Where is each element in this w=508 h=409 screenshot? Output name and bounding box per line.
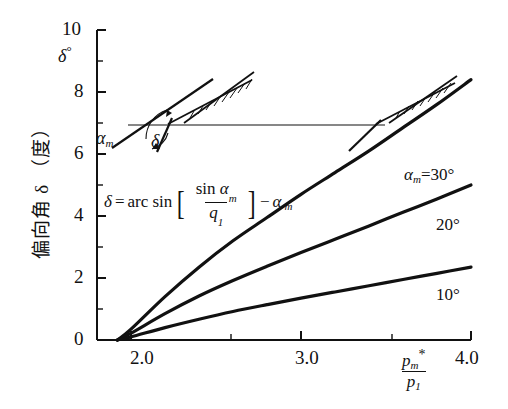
y-unit-symbol: δ° (58, 43, 72, 67)
x-tick-label-4: 4.0 (455, 348, 479, 367)
formula-equals: = (115, 192, 125, 212)
formula-bracket-close: ] (247, 189, 255, 217)
curve-label-10: 10° (436, 285, 460, 305)
y-axis-title-wrap: 偏向角 δ （度） (2, 118, 32, 298)
formula-fraction: sin αm q1 (192, 180, 241, 225)
inset-delta-label: δ (151, 131, 159, 152)
y-axis-title: 偏向角 δ （度） (26, 118, 53, 259)
inset-alpha-label: αm (96, 128, 113, 149)
y-tick-label-4: 4 (74, 205, 84, 224)
formula-tail-alpha: α (273, 192, 282, 212)
y-tick-label-2: 2 (74, 267, 84, 286)
figure-canvas: 10 8 6 4 2 0 δ° 偏向角 δ （度） 2.0 3.0 4.0 pm… (0, 0, 508, 409)
x-tick-label-3: 3.0 (295, 348, 319, 367)
y-tick-label-0: 0 (74, 329, 84, 348)
inset-shock-diagram (112, 72, 457, 152)
formula-lhs: δ (104, 192, 112, 212)
y-tick-label-6: 6 (74, 143, 84, 162)
inset-arrow-alpha (166, 110, 172, 117)
x-axis-title-numerator: pm* (397, 347, 430, 371)
x-axis-title-denominator: p1 (402, 371, 426, 392)
x-axis-title: pm* p1 (397, 347, 430, 392)
x-tick-label-2: 2.0 (130, 348, 154, 367)
curve-label-30: αm=30° (404, 165, 454, 185)
formula-minus: − (260, 192, 270, 212)
formula-fraction-numerator: sin αm (192, 180, 241, 202)
y-tick-label-8: 8 (74, 81, 84, 100)
x-major-ticks (131, 331, 471, 340)
formula-arcsin: arc sin (128, 192, 173, 212)
curve-label-20: 20° (436, 215, 460, 235)
inset-shock-left-upper (184, 72, 254, 123)
formula-tail-alpha-sub: m (285, 200, 293, 212)
formula-bracket-open: [ (177, 189, 185, 217)
formula-annotation: δ= arc sin [ sin αm q1 ] −αm (104, 180, 292, 225)
curve-alpha-10 (117, 267, 471, 340)
formula-fraction-denominator: q1 (205, 202, 227, 225)
y-tick-label-10: 10 (62, 19, 81, 38)
